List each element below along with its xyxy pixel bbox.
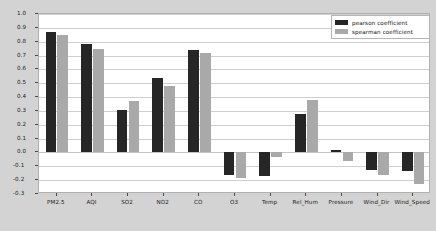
x-tick-label: CO <box>194 199 203 205</box>
x-tick-label: O3 <box>230 199 238 205</box>
correlation-bar-chart-figure: 1.00.90.80.70.60.50.40.30.20.10.0-0.1-0.… <box>0 0 436 231</box>
x-tick-mark <box>234 193 235 196</box>
x-tick-mark <box>198 193 199 196</box>
x-tick-label: Rel_Hum <box>293 199 318 205</box>
x-tick-label: Temp <box>262 199 277 205</box>
x-tick-mark <box>305 193 306 196</box>
x-tick-label: Wind_Speed <box>394 199 429 205</box>
x-tick-mark <box>412 193 413 196</box>
x-tick-mark <box>377 193 378 196</box>
legend-item-pearson: pearson coefficient <box>335 18 426 27</box>
x-tick-label: Pressure <box>329 199 354 205</box>
legend-item-spearman: spearman coefficient <box>335 27 426 36</box>
x-tick-label: Wind_Dir <box>364 199 390 205</box>
x-tick-mark <box>270 193 271 196</box>
legend-label-spearman: spearman coefficient <box>352 29 413 35</box>
x-tick-mark <box>163 193 164 196</box>
x-tick-label: PM2.5 <box>47 199 65 205</box>
x-tick-mark <box>341 193 342 196</box>
x-tick-label: SO2 <box>121 199 133 205</box>
legend: pearson coefficient spearman coefficient <box>331 15 430 39</box>
x-tick-mark <box>127 193 128 196</box>
x-tick-label: AQI <box>86 199 96 205</box>
legend-label-pearson: pearson coefficient <box>352 20 408 26</box>
x-tick-mark <box>56 193 57 196</box>
x-tick-mark <box>91 193 92 196</box>
x-tick-label: NO2 <box>156 199 168 205</box>
legend-swatch-spearman-icon <box>335 29 348 34</box>
legend-swatch-pearson-icon <box>335 20 348 25</box>
